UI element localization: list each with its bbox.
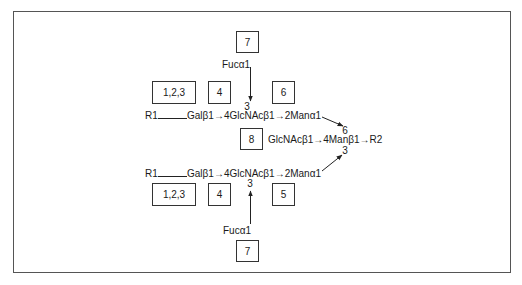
lower-r1-label: R1 [145, 168, 158, 179]
glycan-diagram: 7 Fucα1 3 1,2,3 4 6 R1 Galβ1→4GlcNAcβ1→2… [0, 0, 522, 285]
lower-fucose-link: 3 [247, 178, 253, 189]
svg-text:6: 6 [281, 87, 287, 98]
box-top-7: 7 [237, 32, 259, 53]
upper-to-core-arrow [322, 117, 343, 126]
box-middle-8: 8 [241, 129, 263, 150]
svg-text:5: 5 [281, 189, 287, 200]
box-upper-123: 1,2,3 [153, 82, 196, 104]
svg-text:4: 4 [217, 189, 223, 200]
svg-text:7: 7 [245, 37, 251, 48]
lower-chain-label: Galβ1→4GlcNAcβ1→2Manα1 [187, 168, 321, 179]
svg-text:1,2,3: 1,2,3 [163, 189, 186, 200]
upper-r1-label: R1 [145, 110, 158, 121]
upper-fucose-label: Fucα1 [222, 59, 250, 70]
upper-chain-label: Galβ1→4GlcNAcβ1→2Manα1 [187, 110, 321, 121]
box-lower-5: 5 [273, 184, 295, 206]
svg-text:7: 7 [245, 246, 251, 257]
svg-text:8: 8 [249, 134, 255, 145]
core-link-3: 3 [342, 145, 348, 156]
box-lower-123: 1,2,3 [153, 184, 196, 206]
svg-text:4: 4 [217, 87, 223, 98]
box-bottom-7: 7 [237, 241, 259, 262]
box-upper-4: 4 [209, 82, 231, 104]
box-lower-4: 4 [209, 184, 231, 206]
core-chain-label: GlcNAcβ1→4Manβ1→R2 [268, 134, 383, 145]
lower-to-core-arrow [322, 155, 342, 171]
lower-fucose-label: Fucα1 [223, 225, 251, 236]
svg-text:1,2,3: 1,2,3 [163, 87, 186, 98]
box-upper-6: 6 [273, 82, 295, 104]
